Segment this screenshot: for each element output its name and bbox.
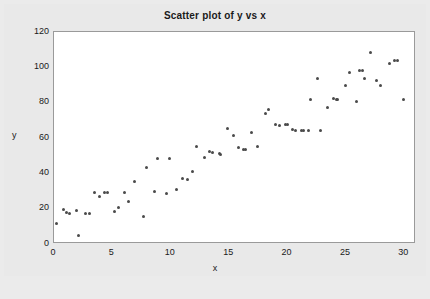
data-point [237, 146, 240, 149]
y-axis-tick-label: 60 [21, 133, 49, 142]
data-point [250, 131, 253, 134]
scatter-plot-screenshot: Scatter plot of y vs x 020406080100120 0… [0, 0, 430, 299]
y-axis-tick-label: 40 [21, 168, 49, 177]
x-axis-tick-label: 20 [272, 248, 302, 257]
data-point [375, 79, 378, 82]
y-axis-tick-label: 120 [21, 27, 49, 36]
data-point [294, 129, 297, 132]
data-point [363, 77, 366, 80]
data-point [127, 200, 130, 203]
data-point [232, 134, 235, 137]
data-point [195, 145, 198, 148]
data-point [117, 206, 120, 209]
data-point [68, 212, 71, 215]
data-point [309, 98, 312, 101]
y-axis-tick-label: 20 [21, 203, 49, 212]
x-axis-label: x [0, 263, 430, 273]
x-axis-tick-label: 0 [38, 248, 68, 257]
y-axis-label: y [12, 131, 17, 140]
scatter-points-layer [54, 32, 414, 242]
data-point [348, 71, 351, 74]
data-point [123, 191, 126, 194]
data-point [191, 170, 194, 173]
data-point [133, 180, 136, 183]
y-axis-tick-label: 0 [21, 239, 49, 248]
data-point [264, 112, 267, 115]
data-point [307, 129, 310, 132]
data-point [355, 100, 358, 103]
x-axis-tick-label: 15 [213, 248, 243, 257]
x-axis-tick-label: 5 [96, 248, 126, 257]
page-title: Scatter plot of y vs x [0, 10, 430, 21]
data-point [226, 127, 229, 130]
data-point [286, 123, 289, 126]
data-point [168, 157, 171, 160]
x-axis-tick-labels: 051015202530 [53, 248, 415, 260]
data-point [203, 156, 206, 159]
y-axis-tick-label: 100 [21, 62, 49, 71]
data-point [319, 129, 322, 132]
data-point [98, 195, 101, 198]
data-point [93, 191, 96, 194]
data-point [256, 145, 259, 148]
data-point [267, 108, 270, 111]
data-point [106, 191, 109, 194]
data-point [165, 192, 168, 195]
data-point [142, 215, 145, 218]
y-axis-tick-labels: 020406080100120 [17, 31, 49, 243]
y-axis-tick-label: 80 [21, 97, 49, 106]
data-point [186, 178, 189, 181]
data-point [244, 148, 247, 151]
data-point [369, 51, 372, 54]
x-axis-tick-label: 30 [388, 248, 418, 257]
x-axis-tick-label: 10 [155, 248, 185, 257]
data-point [302, 129, 305, 132]
data-point [396, 59, 399, 62]
data-point [379, 84, 382, 87]
data-point [274, 123, 277, 126]
data-point [326, 106, 329, 109]
data-point [77, 234, 80, 237]
data-point [211, 151, 214, 154]
x-axis-tick-label: 25 [330, 248, 360, 257]
data-point [153, 190, 156, 193]
data-point [75, 209, 78, 212]
data-point [336, 98, 339, 101]
data-point [156, 157, 159, 160]
data-point [181, 177, 184, 180]
data-point [175, 188, 178, 191]
data-point [88, 212, 91, 215]
data-point [278, 124, 281, 127]
data-point [388, 62, 391, 65]
data-point [145, 166, 148, 169]
data-point [55, 222, 58, 225]
data-point [84, 212, 87, 215]
data-point [361, 69, 364, 72]
plot-area [53, 31, 415, 243]
data-point [316, 77, 319, 80]
data-point [219, 153, 222, 156]
data-point [113, 210, 116, 213]
data-point [344, 84, 347, 87]
data-point [402, 98, 405, 101]
